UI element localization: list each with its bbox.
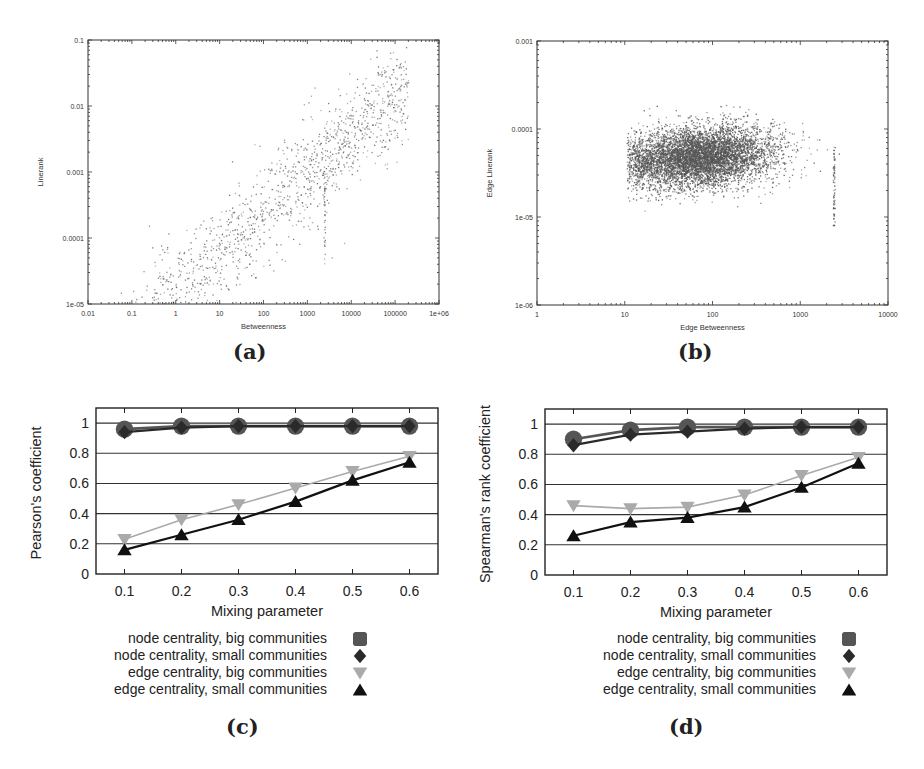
legend-label: node centrality, big communities: [617, 630, 816, 646]
y-tick-label: 0.1: [74, 37, 84, 44]
legend-item: node centrality, small communities: [540, 647, 816, 664]
legend-label: edge centrality, small communities: [114, 681, 327, 697]
legend-item: node centrality, big communities: [90, 630, 327, 647]
legend-c: node centrality, big communitiesnode cen…: [90, 630, 327, 698]
y-tick-label: 1e-05: [66, 301, 84, 308]
x-tick-label: 100000: [383, 310, 406, 317]
y-tick-label: 0.2: [70, 536, 90, 552]
y-tick-label: 0.4: [70, 506, 90, 522]
x-tick-label: 10000: [878, 311, 898, 318]
legend-item: edge centrality, small communities: [540, 681, 816, 698]
legend-label: node centrality, big communities: [128, 630, 327, 646]
diamond-marker-icon: [842, 649, 856, 663]
y-axis-label: Pearson's coefficient: [28, 426, 44, 559]
diamond-marker-icon: [353, 649, 367, 663]
x-tick-label: 100: [258, 310, 270, 317]
legend-item: edge centrality, big communities: [90, 664, 327, 681]
figure: 0.010.11101001000100001000001e+061e-050.…: [0, 0, 924, 769]
y-tick-label: 0.8: [519, 446, 539, 462]
y-tick-label: 0: [81, 566, 89, 582]
y-tick-label: 0.001: [515, 38, 533, 45]
y-axis-label: Edge Linerank: [485, 149, 494, 198]
series-diamond: [118, 419, 415, 439]
caption-a: (a): [233, 339, 266, 364]
triangle-up-marker-icon: [353, 683, 367, 697]
y-tick-label: 0.2: [519, 537, 539, 553]
legend-label: node centrality, small communities: [603, 647, 816, 663]
scatter-plot-b: 1101001000100001e-061e-050.00010.001Edge…: [462, 0, 924, 340]
x-tick-label: 0.1: [127, 310, 137, 317]
x-tick-label: 0.5: [343, 583, 363, 599]
y-axis-label: Spearman's rank coefficient: [477, 405, 493, 583]
circle-marker-icon: [353, 632, 367, 646]
scatter-points: [627, 105, 840, 226]
x-tick-label: 0.3: [678, 584, 698, 600]
series-triangle-down: [117, 451, 416, 546]
x-axis-label: Mixing parameter: [660, 604, 772, 620]
triangle-up-marker-icon: [842, 683, 856, 697]
line-chart-d: 00.20.40.60.810.10.20.30.40.50.6Mixing p…: [462, 395, 924, 625]
y-tick-label: 0.6: [70, 475, 90, 491]
legend-label: edge centrality, big communities: [617, 664, 816, 680]
x-tick-label: 0.2: [172, 583, 192, 599]
y-tick-label: 1e-06: [515, 302, 533, 309]
scatter-plot-a: 0.010.11101001000100001000001e+061e-050.…: [0, 0, 462, 340]
plot-frame: [545, 409, 887, 575]
x-tick-label: 0.01: [81, 310, 95, 317]
legend-label: edge centrality, big communities: [128, 664, 327, 680]
x-tick-label: 0.1: [564, 584, 584, 600]
legend-d: node centrality, big communitiesnode cen…: [540, 630, 816, 698]
legend-item: node centrality, big communities: [540, 630, 816, 647]
x-tick-label: 0.5: [792, 584, 812, 600]
x-tick-label: 0.4: [286, 583, 306, 599]
y-tick-label: 0.001: [66, 169, 84, 176]
y-tick-label: 1: [81, 415, 89, 431]
series-circle: [565, 418, 867, 447]
x-axis-label: Betweenness: [241, 322, 286, 331]
legend-item: edge centrality, small communities: [90, 681, 327, 698]
y-tick-label: 0: [530, 567, 538, 583]
y-tick-label: 0.0001: [63, 235, 85, 242]
x-tick-label: 10: [621, 311, 629, 318]
x-tick-label: 10: [216, 310, 224, 317]
triangle-down-marker-icon: [353, 666, 367, 680]
x-tick-label: 100: [707, 311, 719, 318]
y-tick-label: 0.8: [70, 445, 90, 461]
x-tick-label: 10000: [342, 310, 362, 317]
legend-label: node centrality, small communities: [114, 647, 327, 663]
line-chart-c: 00.20.40.60.810.10.20.30.40.50.6Mixing p…: [0, 395, 462, 625]
plot-frame: [88, 40, 439, 304]
caption-c: (c): [226, 714, 259, 739]
y-tick-label: 1e-05: [515, 214, 533, 221]
x-axis-label: Edge Betweenness: [680, 323, 745, 332]
triangle-down-marker-icon: [842, 666, 856, 680]
x-tick-label: 0.1: [115, 583, 135, 599]
circle-marker-icon: [842, 632, 856, 646]
legend-item: node centrality, small communities: [90, 647, 327, 664]
x-tick-label: 0.3: [229, 583, 249, 599]
series-triangle-up: [117, 456, 416, 556]
y-tick-label: 1: [530, 416, 538, 432]
y-tick-label: 0.4: [519, 507, 539, 523]
caption-d: (d): [669, 714, 704, 739]
legend-item: edge centrality, big communities: [540, 664, 816, 681]
y-tick-label: 0.6: [519, 476, 539, 492]
x-tick-label: 0.4: [735, 584, 755, 600]
x-tick-label: 1: [535, 311, 539, 318]
x-tick-label: 1000: [792, 311, 808, 318]
x-tick-label: 1: [174, 310, 178, 317]
x-tick-label: 0.6: [849, 584, 869, 600]
x-axis-label: Mixing parameter: [211, 603, 323, 619]
caption-b: (b): [678, 339, 713, 364]
y-axis-label: Linerank: [36, 157, 45, 186]
x-tick-label: 1e+06: [429, 310, 449, 317]
y-tick-label: 0.0001: [512, 126, 534, 133]
legend-label: edge centrality, small communities: [603, 681, 816, 697]
x-tick-label: 0.2: [621, 584, 641, 600]
plot-frame: [96, 408, 438, 574]
x-tick-label: 1000: [300, 310, 316, 317]
series-diamond: [567, 420, 864, 453]
y-tick-label: 0.01: [70, 103, 84, 110]
series-circle: [116, 417, 418, 437]
series-triangle-down: [566, 452, 865, 515]
